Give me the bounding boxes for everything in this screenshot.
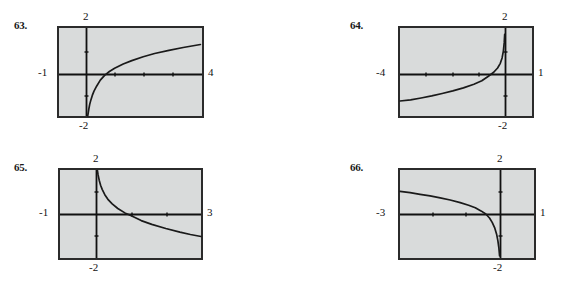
y-bottom-label-65: -2: [89, 262, 98, 273]
y-bottom-label-66: -2: [493, 262, 502, 273]
panel-65: 65. 2 -2 -1 3: [0, 144, 288, 288]
x-left-label-63: -1: [38, 67, 47, 78]
plot-curve-66: [288, 144, 576, 288]
x-right-label-66: 1: [540, 207, 546, 218]
panel-63: 63. 2 -2 -1 4: [0, 0, 288, 144]
x-left-label-64: -4: [376, 67, 385, 78]
y-top-label-65: 2: [93, 153, 99, 164]
y-bottom-label-64: -2: [498, 120, 507, 131]
x-right-label-65: 3: [207, 207, 213, 218]
plot-curve-64: [288, 0, 576, 144]
x-right-label-64: 1: [538, 67, 544, 78]
y-bottom-label-63: -2: [79, 120, 88, 131]
panel-66: 66. 2 -2 -3 1: [288, 144, 576, 288]
x-left-label-66: -3: [376, 207, 385, 218]
panel-64: 64. 2 -2 -4 1: [288, 0, 576, 144]
x-left-label-65: -1: [39, 207, 48, 218]
x-right-label-63: 4: [208, 67, 214, 78]
y-top-label-64: 2: [502, 11, 508, 22]
y-top-label-63: 2: [83, 11, 89, 22]
y-top-label-66: 2: [497, 153, 503, 164]
figure-grid: 63. 2 -2 -1 4 64.: [0, 0, 576, 288]
